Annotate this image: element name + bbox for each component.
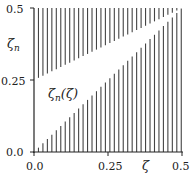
y-tick-label: 0.0 bbox=[6, 146, 24, 159]
chart: 0.5 0.25 0.0 0.0 0.25 0.5 ζn ζ ζn(ζ) bbox=[0, 0, 191, 178]
x-axis-label: ζ bbox=[142, 158, 150, 173]
hatch-lines bbox=[38, 8, 181, 152]
y-axis-label: ζn bbox=[7, 36, 20, 53]
region-annotation: ζn(ζ) bbox=[48, 86, 78, 103]
x-tick-label: 0.25 bbox=[98, 160, 123, 173]
y-tick-label: 0.5 bbox=[6, 3, 24, 16]
x-tick-label: 0.0 bbox=[26, 160, 44, 173]
y-tick-label: 0.25 bbox=[1, 75, 26, 88]
x-tick-label: 0.5 bbox=[172, 160, 190, 173]
